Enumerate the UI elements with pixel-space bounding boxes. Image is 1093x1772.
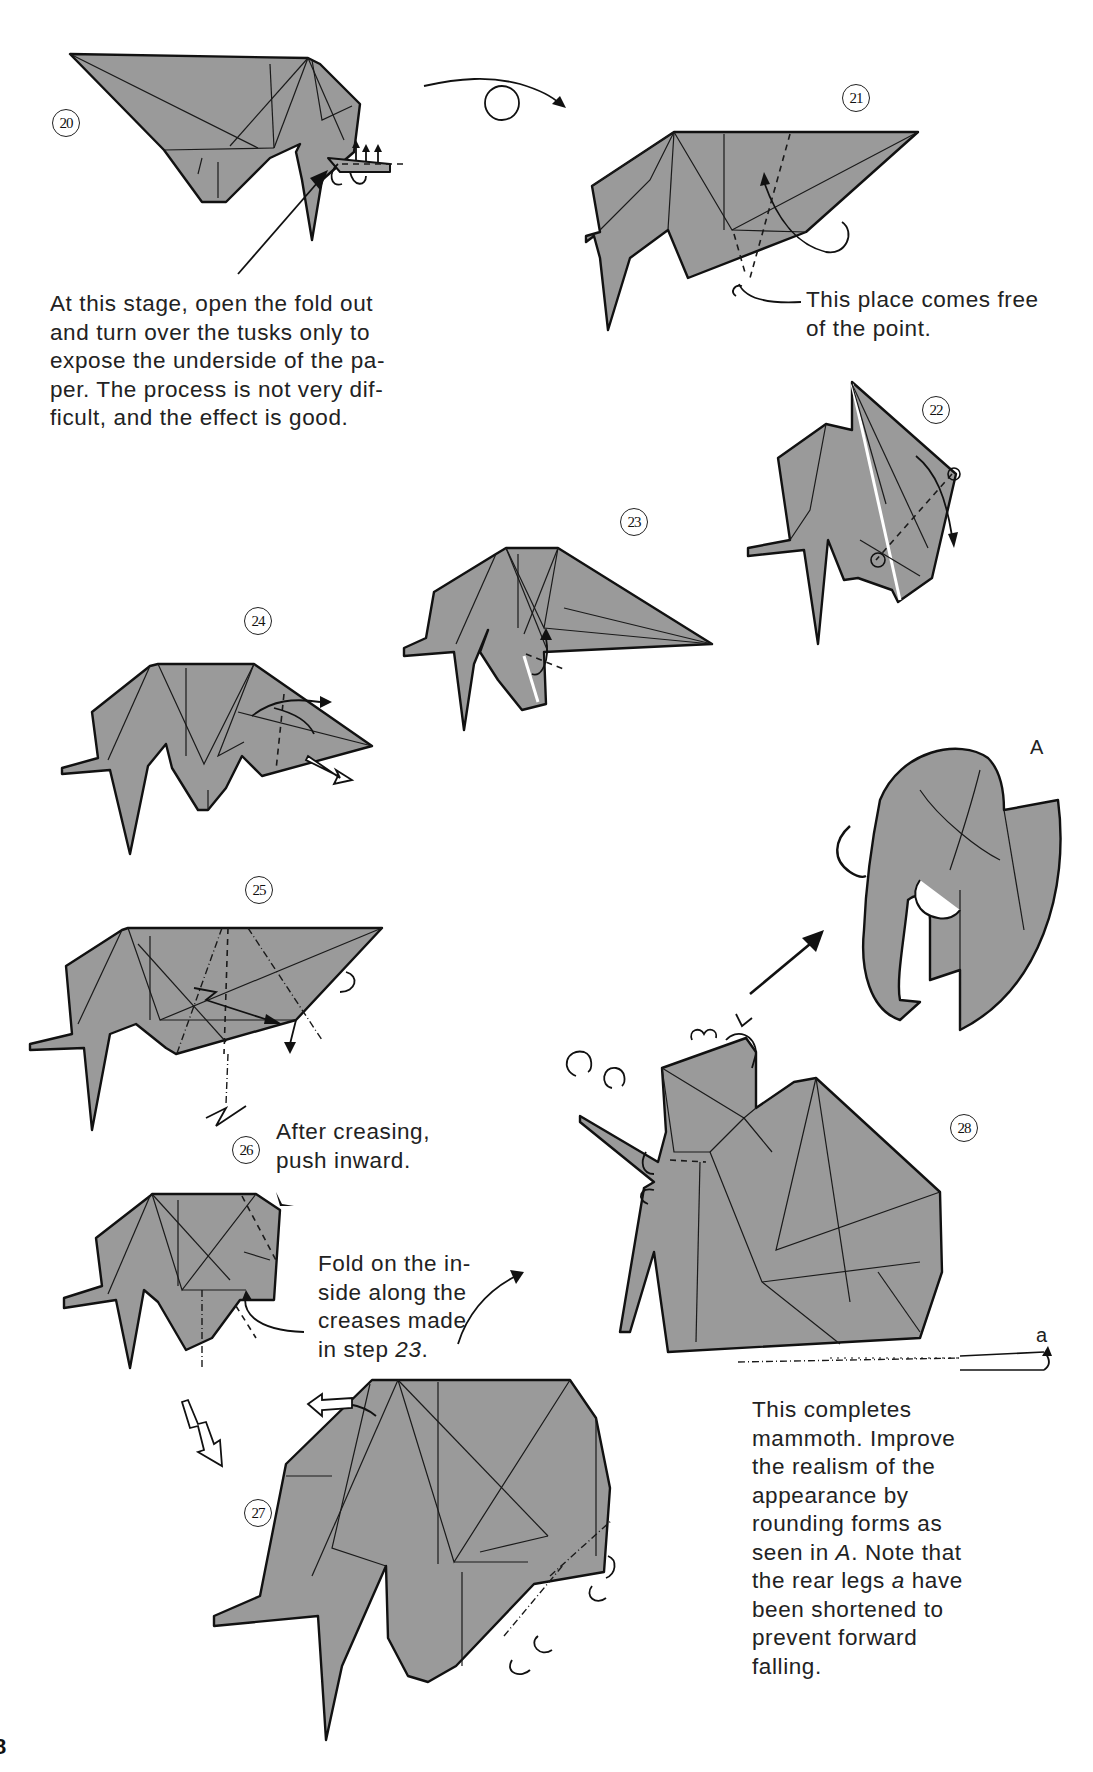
step-27-diagram bbox=[212, 1376, 612, 1736]
final-caption: This completes mammoth. Improve the real… bbox=[752, 1396, 1072, 1681]
step-24-diagram bbox=[58, 660, 378, 860]
step-number-26: 26 bbox=[232, 1136, 260, 1164]
step-26-push-caption: After creasing, push inward. bbox=[276, 1118, 476, 1175]
step-28-diagram bbox=[550, 1012, 970, 1362]
step-23-diagram bbox=[396, 544, 716, 734]
detail-view-A bbox=[820, 730, 1070, 1030]
page-number: 8 bbox=[0, 1734, 6, 1760]
step-number-25: 25 bbox=[245, 876, 273, 904]
ref-A: A bbox=[836, 1540, 852, 1565]
step-21-caption: This place comes free of the point. bbox=[806, 286, 1086, 343]
ref-a: a bbox=[892, 1568, 905, 1593]
step-20-caption: At this stage, open the fold out and tur… bbox=[50, 290, 410, 433]
step-number-24: 24 bbox=[244, 607, 272, 635]
enlarge-arrow-icon bbox=[746, 930, 826, 1000]
callout-line-step21 bbox=[735, 280, 805, 310]
pointer-arrow-step20 bbox=[230, 170, 340, 280]
step-25-diagram bbox=[26, 924, 396, 1134]
step-22-diagram bbox=[740, 380, 970, 670]
step-number-23: 23 bbox=[620, 508, 648, 536]
rear-legs-indicator bbox=[830, 1344, 1060, 1374]
pointer-arrow-step28 bbox=[454, 1268, 534, 1348]
turn-over-icon bbox=[420, 74, 570, 134]
callout-line-step26 bbox=[240, 1290, 310, 1350]
step-number-21: 21 bbox=[842, 84, 870, 112]
